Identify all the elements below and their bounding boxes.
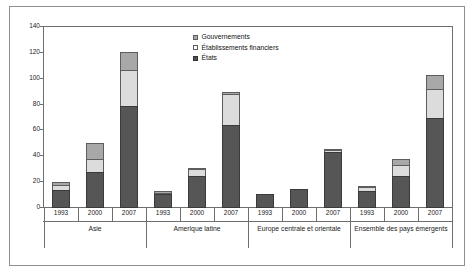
bar-segment-gouvernements (120, 52, 138, 70)
legend-swatch-etablissements-financiers (193, 45, 198, 50)
category-year-label: 2000 (180, 210, 214, 217)
bar-segment-etablissements-financiers (86, 159, 104, 172)
bar-segment-etats (120, 106, 138, 208)
legend-swatch-gouvernements (193, 35, 198, 40)
category-year-label: 2007 (112, 210, 146, 217)
bar-segment-etats (222, 125, 240, 208)
y-axis-tick-label: 80 (14, 101, 40, 108)
category-axis: 199320002007Asie199320002007Amerique lat… (43, 208, 453, 256)
y-axis-tick-label: 20 (14, 178, 40, 185)
y-axis-tick-label: 140 (14, 23, 40, 30)
stacked-bar[interactable] (120, 52, 138, 208)
figure-frame: 140120100806040200 Gouvernements Établis… (9, 6, 465, 266)
legend-label-etablissements-financiers: Établissements financiers (202, 43, 279, 54)
bar-segment-etats (256, 194, 274, 208)
category-tick-separator (78, 208, 79, 221)
category-year-label: 2000 (78, 210, 112, 217)
stacked-bar[interactable] (358, 186, 376, 208)
bar-segment-gouvernements (86, 143, 104, 159)
stacked-bar[interactable] (324, 149, 342, 208)
category-year-label: 2000 (384, 210, 418, 217)
category-year-label: 2007 (214, 210, 248, 217)
bar-segment-etablissements-financiers (222, 94, 240, 125)
category-tick-separator (316, 208, 317, 221)
stacked-bar[interactable] (290, 189, 308, 208)
category-year-label: 1993 (44, 210, 78, 217)
chart-plot-area: 140120100806040200 Gouvernements Établis… (10, 7, 466, 267)
legend-item-gouvernements: Gouvernements (193, 32, 279, 43)
category-year-label: 2007 (316, 210, 350, 217)
y-axis-tick-label: 60 (14, 126, 40, 133)
chart-legend: Gouvernements Établissements financiers … (193, 32, 279, 64)
bar-segment-etats (392, 176, 410, 208)
bar-group (350, 27, 452, 208)
stacked-bar[interactable] (52, 182, 70, 208)
bar-group (44, 27, 146, 208)
legend-label-etats: États (202, 53, 218, 64)
legend-item-etablissements-financiers: Établissements financiers (193, 43, 279, 54)
category-tick-separator (418, 208, 419, 221)
y-axis-tick-label: 0 (14, 204, 40, 211)
group-label: Amerique latine (146, 225, 248, 234)
y-axis-tick-label: 40 (14, 152, 40, 159)
stacked-bar[interactable] (222, 92, 240, 208)
category-year-label: 1993 (248, 210, 282, 217)
category-year-label: 2007 (418, 210, 452, 217)
group-separator (452, 208, 453, 248)
category-tick-separator (214, 208, 215, 221)
legend-item-etats: États (193, 53, 279, 64)
group-label: Ensemble des pays émergents (350, 225, 452, 234)
stacked-bar[interactable] (86, 143, 104, 208)
y-axis-tick-label: 100 (14, 75, 40, 82)
group-label: Europe centrale et orientale (248, 225, 350, 234)
stacked-bar[interactable] (392, 159, 410, 208)
bar-segment-etats (358, 191, 376, 208)
bar-segment-etats (426, 118, 444, 209)
category-tick-separator (282, 208, 283, 221)
category-tick-separator (112, 208, 113, 221)
legend-label-gouvernements: Gouvernements (202, 32, 250, 43)
category-tick-separator (384, 208, 385, 221)
category-tick-separator (180, 208, 181, 221)
legend-swatch-etats (193, 56, 198, 61)
stacked-bar[interactable] (188, 168, 206, 208)
group-label: Asie (44, 225, 146, 234)
category-year-label: 1993 (350, 210, 384, 217)
y-axis-tick-label: 120 (14, 49, 40, 56)
y-axis: 140120100806040200 (10, 26, 40, 208)
bar-segment-etablissements-financiers (120, 70, 138, 106)
bar-segment-etats (154, 194, 172, 208)
stacked-bar[interactable] (426, 75, 444, 208)
bar-segment-etats (324, 152, 342, 208)
category-year-label: 2000 (282, 210, 316, 217)
bar-segment-etablissements-financiers (426, 89, 444, 117)
bar-segment-etats (290, 189, 308, 208)
stacked-bar[interactable] (154, 191, 172, 208)
bar-segment-etats (188, 176, 206, 208)
bar-segment-etablissements-financiers (392, 165, 410, 175)
bar-segment-etats (52, 190, 70, 208)
stacked-bar[interactable] (256, 194, 274, 208)
category-year-label: 1993 (146, 210, 180, 217)
bar-segment-gouvernements (426, 75, 444, 89)
bar-segment-etats (86, 172, 104, 208)
